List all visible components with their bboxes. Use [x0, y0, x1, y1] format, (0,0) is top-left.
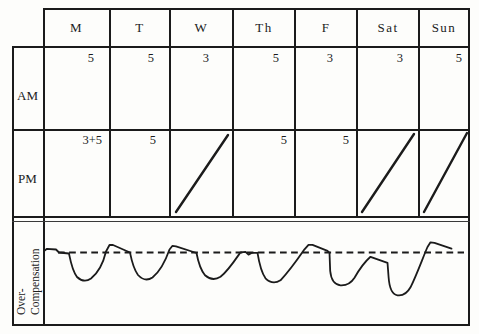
pm-value-t: 5 — [110, 133, 170, 149]
day-header-t: T — [110, 8, 170, 47]
day-header-f: F — [295, 8, 357, 47]
overcompensation-label-line2: Compensation — [28, 221, 42, 325]
weekly-dosing-overcompensation-figure: M T W Th F Sat Sun 5 5 3 5 3 3 5 3+5 5 5… — [0, 0, 479, 334]
pm-diagonal-w-icon — [176, 135, 228, 212]
day-header-w: W — [170, 8, 233, 47]
day-header-sat: Sat — [357, 8, 419, 47]
pm-value-m: 3+5 — [43, 133, 110, 149]
pm-value-th: 5 — [233, 133, 295, 149]
am-value-m: 5 — [43, 51, 110, 67]
day-header-sun: Sun — [419, 8, 469, 47]
day-header-th: Th — [233, 8, 295, 47]
pm-diagonal-sat-icon — [362, 134, 414, 212]
pm-value-f: 5 — [295, 133, 357, 149]
row-label-pm: PM — [12, 171, 43, 187]
am-value-f: 3 — [295, 51, 357, 67]
row-label-overcompensation: Over- Compensation — [12, 221, 43, 325]
am-value-t: 5 — [110, 51, 170, 67]
overcompensation-label-line1: Over- — [14, 221, 28, 325]
overcompensation-curve — [44, 242, 452, 295]
am-value-sun: 5 — [419, 51, 469, 67]
row-label-am: AM — [12, 88, 43, 104]
am-value-w: 3 — [170, 51, 233, 67]
day-header-m: M — [43, 8, 110, 47]
am-value-th: 5 — [233, 51, 295, 67]
am-value-sat: 3 — [357, 51, 419, 67]
pm-diagonal-sun-icon — [424, 133, 467, 212]
